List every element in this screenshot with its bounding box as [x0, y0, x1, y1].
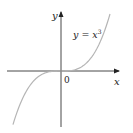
- cubic-function-graph: y x 0 y = x3: [0, 0, 133, 133]
- x-axis-label: x: [114, 76, 120, 87]
- y-axis-label: y: [51, 10, 58, 21]
- equation-label: y = x3: [72, 28, 102, 40]
- origin-label: 0: [64, 75, 70, 85]
